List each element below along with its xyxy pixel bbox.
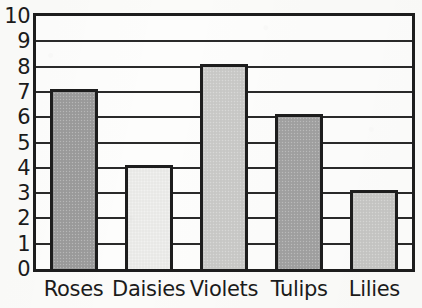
bar-lilies: [350, 190, 398, 269]
plot-inner: [36, 16, 412, 269]
y-tick-label-7: 7: [0, 81, 30, 102]
x-axis: RosesDaisiesVioletsTulipsLilies: [33, 274, 415, 306]
y-tick-label-1: 1: [0, 233, 30, 254]
bar-roses: [50, 89, 98, 269]
chart-title: [0, 0, 422, 3]
bar-daisies: [125, 165, 173, 269]
y-tick-label-8: 8: [0, 56, 30, 77]
bar-chart-scan: 109876543210 RosesDaisiesVioletsTulipsLi…: [0, 0, 422, 308]
y-tick-label-10: 10: [0, 6, 30, 27]
x-tick-label-daisies: Daisies: [111, 274, 186, 304]
y-tick-label-9: 9: [0, 31, 30, 52]
x-tick-label-tulips: Tulips: [262, 274, 337, 304]
y-tick-label-5: 5: [0, 132, 30, 153]
y-tick-label-3: 3: [0, 183, 30, 204]
x-tick-label-roses: Roses: [36, 274, 111, 304]
y-axis: 109876543210: [0, 0, 33, 308]
y-tick-label-4: 4: [0, 157, 30, 178]
y-tick-label-6: 6: [0, 107, 30, 128]
plot-area: [33, 13, 415, 272]
y-tick-label-2: 2: [0, 208, 30, 229]
x-tick-label-violets: Violets: [186, 274, 261, 304]
bar-tulips: [275, 114, 323, 269]
y-tick-label-0: 0: [0, 259, 30, 280]
bar-series: [36, 16, 412, 269]
bar-violets: [200, 64, 248, 269]
x-tick-label-lilies: Lilies: [337, 274, 412, 304]
